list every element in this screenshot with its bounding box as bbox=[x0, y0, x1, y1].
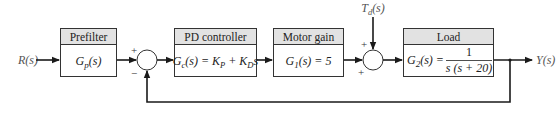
load-numerator: 1 bbox=[466, 45, 472, 59]
load-title: Load bbox=[437, 31, 461, 43]
motor-gain-title: Motor gain bbox=[283, 31, 335, 44]
load-denominator: s (s + 20) bbox=[446, 61, 492, 75]
minus-sign: − bbox=[131, 67, 137, 79]
pd-controller-transfer-function: Gc(s) = KP + KDs bbox=[173, 54, 259, 70]
plus-sign: + bbox=[361, 38, 367, 50]
pd-controller-block: PD controller Gc(s) = KP + KDs bbox=[173, 29, 259, 77]
pd-controller-title: PD controller bbox=[184, 31, 246, 43]
prefilter-transfer-function: Gp(s) bbox=[76, 54, 102, 70]
load-transfer-function-lhs: G2(s) = bbox=[407, 53, 444, 69]
input-signal-label: R(s) bbox=[17, 53, 38, 67]
disturbance-signal-label: Td(s) bbox=[361, 1, 385, 17]
block-diagram: R(s) Prefilter Gp(s) + − PD controller G… bbox=[0, 0, 560, 113]
prefilter-title: Prefilter bbox=[70, 31, 108, 43]
load-block: Load G2(s) = 1 s (s + 20) bbox=[404, 29, 494, 77]
output-signal-label: Y(s) bbox=[536, 53, 555, 67]
disturbance-summing-junction: + + bbox=[358, 38, 383, 78]
motor-gain-block: Motor gain G1(s) = 5 bbox=[274, 29, 344, 77]
prefilter-block: Prefilter Gp(s) bbox=[61, 29, 117, 77]
plus-sign: + bbox=[131, 44, 137, 56]
error-summing-junction: + − bbox=[131, 44, 157, 79]
plus-sign: + bbox=[358, 66, 364, 78]
motor-gain-transfer-function: G1(s) = 5 bbox=[286, 54, 332, 70]
